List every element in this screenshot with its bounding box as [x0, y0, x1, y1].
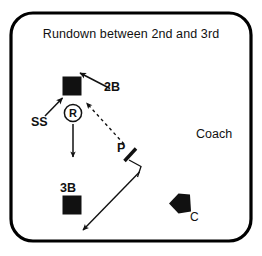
second-base-bag: [63, 77, 82, 96]
third-base-bag: [63, 196, 82, 215]
shortstop-label: SS: [31, 116, 48, 129]
play-diagram-canvas: R Rundown between 2nd and 3rd 2B SS 3B P…: [0, 0, 262, 256]
pitcher-label: P: [117, 142, 125, 155]
catcher-label: C: [190, 211, 199, 223]
runner-marker: R: [64, 104, 81, 121]
third-base-label: 3B: [60, 182, 76, 195]
diagram-title: Rundown between 2nd and 3rd: [0, 28, 262, 41]
second-base-label: 2B: [104, 81, 120, 94]
coach-label: Coach: [196, 128, 232, 141]
svg-text:R: R: [69, 107, 77, 119]
